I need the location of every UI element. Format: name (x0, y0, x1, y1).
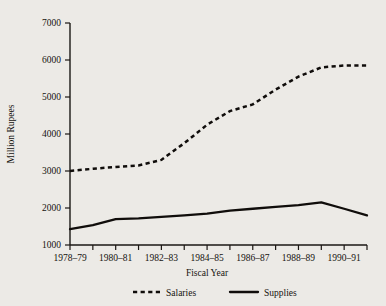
x-tick-label: 1986–87 (236, 253, 270, 263)
x-axis-tick-labels: 1978–791980–811982–831984–851986–871988–… (53, 253, 361, 263)
y-axis-ticks (65, 23, 70, 245)
x-tick-label: 1980–81 (99, 253, 133, 263)
y-tick-label: 6000 (42, 55, 61, 65)
series-line-salaries (70, 66, 367, 171)
x-tick-label: 1990–91 (328, 253, 362, 263)
y-axis: 1000200030004000500060007000 (42, 18, 70, 250)
y-tick-label: 5000 (42, 92, 61, 102)
x-axis-title: Fiscal Year (186, 268, 229, 278)
x-tick-label: 1984–85 (190, 253, 224, 263)
x-axis-ticks (70, 245, 367, 250)
y-tick-label: 2000 (42, 203, 61, 213)
x-tick-label: 1982–83 (145, 253, 179, 263)
chart-legend: Salaries Supplies (133, 288, 297, 298)
x-tick-label: 1988–89 (282, 253, 316, 263)
x-tick-label: 1978–79 (53, 253, 87, 263)
y-axis-title: Million Rupees (6, 104, 16, 163)
y-axis-tick-labels: 1000200030004000500060007000 (42, 18, 61, 250)
line-chart: 1000200030004000500060007000 1978–791980… (0, 0, 386, 306)
legend-label-supplies: Supplies (264, 288, 297, 298)
data-series-group (70, 66, 367, 230)
y-tick-label: 4000 (42, 129, 61, 139)
chart-container: 1000200030004000500060007000 1978–791980… (0, 0, 386, 306)
y-tick-label: 3000 (42, 166, 61, 176)
series-line-supplies (70, 202, 367, 229)
y-tick-label: 1000 (42, 240, 61, 250)
legend-label-salaries: Salaries (166, 288, 196, 298)
legend-item-supplies: Supplies (230, 288, 297, 298)
legend-item-salaries: Salaries (133, 288, 196, 298)
y-tick-label: 7000 (42, 18, 61, 28)
x-axis: 1978–791980–811982–831984–851986–871988–… (53, 245, 367, 263)
